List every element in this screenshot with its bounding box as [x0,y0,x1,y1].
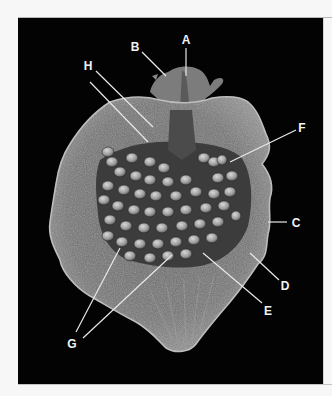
label-c: C [292,217,301,229]
label-b: B [131,41,140,53]
label-e: E [264,305,272,317]
label-g: G [67,338,76,350]
leader-line-b [142,52,166,76]
label-a: A [182,34,191,46]
label-h: H [84,60,93,72]
label-f: F [298,122,305,134]
specimen-illustration [18,18,323,384]
figure-right-border [323,18,324,384]
label-d: D [281,280,290,292]
figure-bottom-border [18,384,332,385]
micrograph-panel: A B C D E F G H [18,18,323,384]
